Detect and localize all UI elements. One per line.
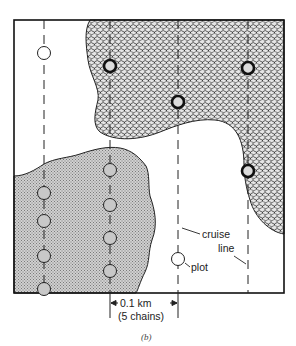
scale-label: 0.1 km [120,297,152,309]
figure-caption: (b) [141,332,152,342]
plot-circle [172,253,185,266]
plot-circle [104,164,117,177]
plot-circle [38,215,51,228]
cruise-line-leader-2 [234,256,246,264]
plot-circle [38,283,51,296]
plot-circle [104,232,117,245]
plot-circle [172,96,184,108]
plot-circle [242,62,254,74]
plot-circle [104,199,117,212]
plot-circle [38,250,51,263]
plot-leader [185,263,190,267]
plot-label: plot [191,261,208,273]
plot-circle [104,60,116,72]
plot-circle [242,165,254,177]
plot-circle [38,187,51,200]
plot-circle [38,47,51,60]
cruise-line-label-2: line [218,242,235,254]
cruise-diagram: cruise line plot 0.1 km (5 chains) (b) [0,0,296,346]
light-stipple-region [14,147,155,293]
scale-label-chains: (5 chains) [118,310,164,322]
cruise-line-label: cruise [202,228,230,240]
plot-circle [104,265,117,278]
cruise-line-leader-1 [182,228,200,234]
